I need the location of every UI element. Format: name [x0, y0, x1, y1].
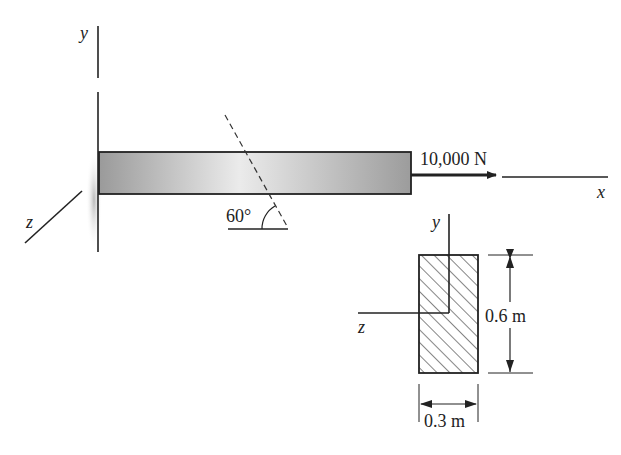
global-y-axis: y — [78, 23, 98, 78]
width-label: 0.3 m — [424, 411, 465, 431]
height-label: 0.6 m — [485, 306, 526, 326]
z-axis-label: z — [25, 212, 33, 232]
global-x-axis: x — [502, 177, 608, 202]
beam — [99, 152, 411, 194]
diagram-canvas: y z 60° 10,000 N x y z — [0, 0, 621, 455]
load-arrow: 10,000 N — [411, 149, 496, 175]
width-dimension: 0.3 m — [419, 384, 478, 431]
load-label: 10,000 N — [420, 149, 487, 169]
angle-label: 60° — [226, 206, 251, 226]
y-axis-label: y — [78, 23, 88, 43]
x-axis-label: x — [596, 182, 605, 202]
section-y-axis-label: y — [430, 212, 440, 232]
global-z-axis: z — [25, 191, 82, 243]
cross-section: y z — [357, 212, 478, 373]
angle-indicator: 60° — [226, 206, 288, 229]
section-z-axis-label: z — [357, 317, 365, 337]
height-dimension: 0.6 m — [485, 255, 533, 373]
